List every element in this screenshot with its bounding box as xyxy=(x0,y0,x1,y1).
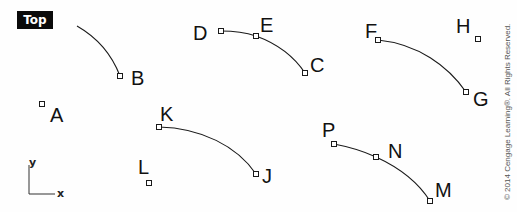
point-label: L xyxy=(138,156,149,178)
point-label: P xyxy=(322,119,335,141)
y-axis-label: y xyxy=(29,156,36,169)
diagram-canvas: Top ABCDEFGHJKLMNP y x © 2014 Cengage Le… xyxy=(0,0,517,212)
point-a[interactable]: A xyxy=(40,102,65,127)
point-marker-icon[interactable] xyxy=(374,155,379,160)
point-l[interactable]: L xyxy=(138,156,152,186)
copyright-notice: © 2014 Cengage Learning®. All Rights Res… xyxy=(503,24,512,200)
curve-K-J[interactable] xyxy=(159,127,256,174)
point-e[interactable]: E xyxy=(254,14,274,39)
point-marker-icon[interactable] xyxy=(147,181,152,186)
point-label: H xyxy=(456,15,470,37)
point-k[interactable]: K xyxy=(157,103,175,130)
point-c[interactable]: C xyxy=(303,54,325,76)
point-marker-icon[interactable] xyxy=(254,172,259,177)
point-label: G xyxy=(473,88,489,110)
point-marker-icon[interactable] xyxy=(332,142,337,147)
point-d[interactable]: D xyxy=(193,22,224,44)
point-label: F xyxy=(365,20,377,42)
point-label: N xyxy=(388,140,402,162)
axis-lines xyxy=(29,165,55,194)
axis-indicator: y x xyxy=(29,156,64,200)
point-marker-icon[interactable] xyxy=(476,37,481,42)
x-axis-label: x xyxy=(57,187,64,200)
point-m[interactable]: M xyxy=(428,179,452,204)
point-label: A xyxy=(50,104,64,126)
point-h[interactable]: H xyxy=(456,15,481,42)
point-p[interactable]: P xyxy=(322,119,337,147)
point-marker-icon[interactable] xyxy=(254,34,259,39)
point-j[interactable]: J xyxy=(254,165,273,187)
point-label: B xyxy=(131,67,144,89)
point-marker-icon[interactable] xyxy=(118,74,123,79)
point-marker-icon[interactable] xyxy=(157,125,162,130)
point-marker-icon[interactable] xyxy=(219,29,224,34)
point-marker-icon[interactable] xyxy=(40,102,45,107)
point-label: C xyxy=(310,54,324,76)
curve-P-N-M[interactable] xyxy=(334,144,430,201)
points-group: ABCDEFGHJKLMNP xyxy=(40,14,489,204)
curve-F-G[interactable] xyxy=(378,40,466,92)
point-marker-icon[interactable] xyxy=(464,90,469,95)
curve-D-E-C[interactable] xyxy=(221,31,305,73)
point-label: E xyxy=(260,14,273,36)
curve-to-B[interactable] xyxy=(77,26,120,76)
point-f[interactable]: F xyxy=(365,20,381,43)
point-b[interactable]: B xyxy=(118,67,145,89)
point-n[interactable]: N xyxy=(374,140,403,162)
point-marker-icon[interactable] xyxy=(428,199,433,204)
point-marker-icon[interactable] xyxy=(303,71,308,76)
point-label: K xyxy=(160,103,174,125)
point-label: J xyxy=(262,165,272,187)
point-label: D xyxy=(193,22,207,44)
point-g[interactable]: G xyxy=(464,88,489,110)
diagram-svg: ABCDEFGHJKLMNP y x xyxy=(0,0,517,212)
point-label: M xyxy=(435,179,452,201)
